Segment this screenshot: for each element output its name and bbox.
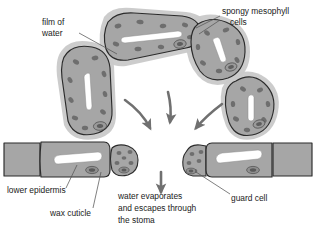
- nucleus: [86, 166, 99, 173]
- epidermis-far-right: [273, 143, 312, 176]
- cell-top-center: [104, 13, 200, 60]
- label-water-escapes: water evaporates and escapes through the…: [117, 191, 197, 225]
- chloroplast: [197, 159, 202, 163]
- diagram-canvas: film of water spongy mesophyll cells low…: [0, 0, 316, 232]
- cell-right-lower: [225, 77, 274, 136]
- leaf-transpiration-diagram: film of water spongy mesophyll cells low…: [0, 0, 316, 232]
- label-film-of-water-line1: film of: [42, 17, 65, 27]
- cell-left: [62, 46, 112, 135]
- arrow-center: [168, 92, 171, 122]
- nucleus: [247, 166, 260, 173]
- chloroplast: [117, 151, 122, 155]
- label-wax-cuticle: wax cuticle: [49, 208, 91, 218]
- nucleolus: [122, 169, 127, 172]
- chloroplast: [122, 156, 127, 160]
- label-spongy-mesophyll: spongy mesophyll cells: [222, 6, 289, 27]
- label-lower-epidermis: lower epidermis: [7, 185, 66, 195]
- chloroplast: [128, 150, 133, 154]
- nucleolus: [89, 168, 95, 172]
- label-film-of-water-line2: water: [41, 28, 63, 38]
- label-water-escapes-line1: water evaporates: [117, 191, 182, 201]
- nucleolus: [250, 168, 256, 172]
- label-water-escapes-line3: the stoma: [118, 215, 155, 225]
- epidermis-small-right: [183, 145, 206, 176]
- guard-cell-right: [206, 143, 272, 177]
- chloroplast: [199, 150, 204, 154]
- epidermis-far-left: [4, 143, 40, 176]
- label-film-of-water: film of water: [41, 17, 65, 38]
- label-guard-cell: guard cell: [231, 193, 267, 203]
- arrow-right: [196, 104, 222, 128]
- chloroplast: [115, 161, 120, 165]
- water-vapour-arrows: [125, 92, 222, 192]
- chloroplast: [187, 161, 192, 165]
- vacuole-water-slit: [248, 95, 254, 121]
- chloroplast: [190, 152, 195, 156]
- epidermis-small-left: [111, 145, 139, 176]
- cell-wall: [273, 143, 312, 176]
- cell-wall: [4, 143, 40, 176]
- label-water-escapes-line2: and escapes through: [118, 203, 197, 213]
- arrow-left: [125, 100, 150, 128]
- label-spongy-mesophyll-line2: cells: [230, 17, 247, 27]
- label-spongy-mesophyll-line1: spongy mesophyll: [222, 6, 289, 16]
- nucleus: [119, 167, 129, 173]
- chloroplast: [129, 161, 134, 165]
- nucleus: [186, 168, 196, 174]
- guard-cell-left: [40, 142, 110, 177]
- nucleolus: [189, 170, 194, 173]
